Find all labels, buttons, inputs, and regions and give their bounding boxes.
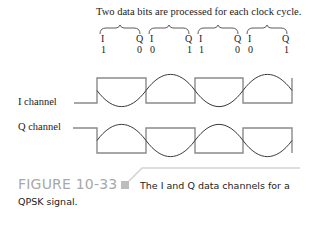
brace-1	[100, 25, 140, 34]
i-channel-square-wave	[74, 78, 292, 103]
brace-group	[100, 25, 287, 34]
brace-2	[149, 25, 189, 34]
brace-4	[247, 25, 287, 34]
caption-accent-square	[121, 181, 129, 189]
figure-caption-line-2: QPSK signal.	[18, 196, 78, 207]
figure-caption-line-1: The I and Q data channels for a	[140, 180, 290, 191]
brace-3	[198, 25, 238, 34]
figure-number: FIGURE 10-33	[18, 176, 117, 192]
q-channel-square-wave	[73, 128, 292, 153]
